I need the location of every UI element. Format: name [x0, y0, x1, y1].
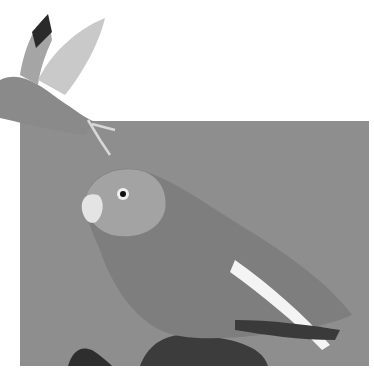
tree-stump	[68, 335, 268, 366]
flying-lovebird	[0, 14, 115, 155]
perched-lovebird	[82, 169, 352, 350]
photo-scene	[0, 0, 374, 370]
